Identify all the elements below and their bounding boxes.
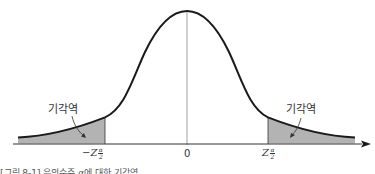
fraction-denominator: 2 [99, 154, 103, 160]
x-axis-arrow-icon [361, 141, 371, 148]
fraction-denominator: 2 [271, 154, 275, 160]
alpha-half-fraction: α2 [270, 147, 275, 160]
alpha-half-fraction: α2 [98, 147, 103, 160]
left-rejection-label: 기각역 [48, 104, 78, 115]
bell-curve [18, 11, 355, 137]
neg-critical-symbol: −Z [82, 147, 97, 158]
pos-critical-tick: Zα2 [262, 147, 275, 160]
figure-caption: [그림 8-1] 유의수준 α에 대한 기각역 [0, 166, 138, 174]
zero-tick: 0 [184, 148, 190, 159]
pos-critical-symbol: Z [262, 147, 269, 158]
neg-critical-tick: −Zα2 [82, 147, 103, 160]
right-rejection-label: 기각역 [286, 104, 316, 115]
